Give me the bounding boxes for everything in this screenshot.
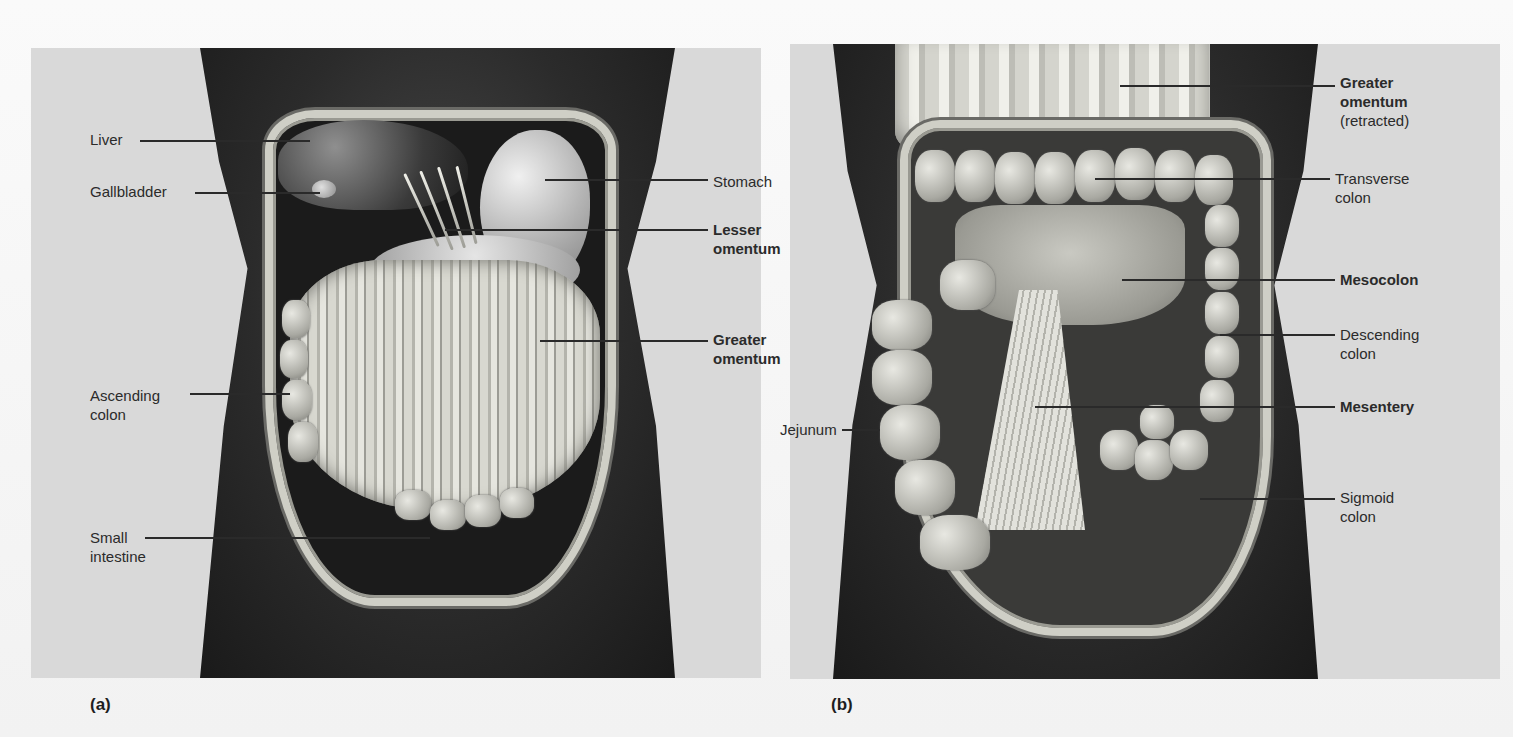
label-gallbladder: Gallbladder	[90, 182, 167, 201]
leader-gallbladder	[195, 192, 320, 194]
leader-stomach	[545, 179, 708, 181]
label-descending-colon: Descending colon	[1340, 325, 1419, 363]
leader-sigmoid-colon	[1200, 498, 1335, 500]
leader-mesentery	[1035, 406, 1335, 408]
panel-b-tag: (b)	[831, 695, 853, 715]
label-small-intestine: Small intestine	[90, 528, 146, 566]
label-greater-omentum: Greater omentum	[713, 330, 781, 368]
leader-greater-omentum-retracted	[1120, 85, 1335, 87]
leader-liver	[140, 140, 310, 142]
label-greater-omentum-retracted: Greater omentum (retracted)	[1340, 73, 1409, 130]
leader-lesser-omentum	[445, 229, 708, 231]
leader-transverse-colon	[1095, 178, 1330, 180]
label-mesocolon: Mesocolon	[1340, 270, 1418, 289]
leader-ascending-colon	[190, 393, 290, 395]
leader-small-intestine	[145, 537, 430, 539]
leader-greater-omentum	[540, 340, 708, 342]
label-stomach: Stomach	[713, 172, 772, 191]
leader-descending-colon	[1220, 334, 1335, 336]
gallbladder-illustration	[312, 180, 336, 198]
greater-omentum-illustration	[290, 260, 600, 510]
label-jejunum: Jejunum	[780, 420, 837, 439]
mesocolon-illustration	[955, 205, 1185, 325]
label-lesser-omentum: Lesser omentum	[713, 220, 781, 258]
label-mesentery: Mesentery	[1340, 397, 1414, 416]
label-ascending-colon: Ascending colon	[90, 386, 160, 424]
label-liver: Liver	[90, 130, 123, 149]
leader-mesocolon	[1122, 279, 1335, 281]
label-transverse-colon: Transverse colon	[1335, 169, 1409, 207]
panel-a-tag: (a)	[90, 695, 111, 715]
label-sigmoid-colon: Sigmoid colon	[1340, 488, 1394, 526]
leader-jejunum	[842, 429, 880, 431]
